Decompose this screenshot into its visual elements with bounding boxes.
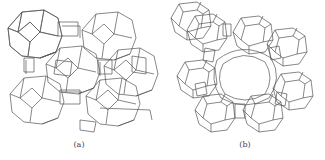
panel-b-structure xyxy=(165,0,325,140)
framework-b-drawing xyxy=(165,0,325,140)
framework-a-drawing xyxy=(0,0,165,140)
panel-b-caption: (b) xyxy=(230,140,260,149)
panel-a-caption: (a) xyxy=(64,140,94,149)
panel-a-structure xyxy=(0,0,165,140)
